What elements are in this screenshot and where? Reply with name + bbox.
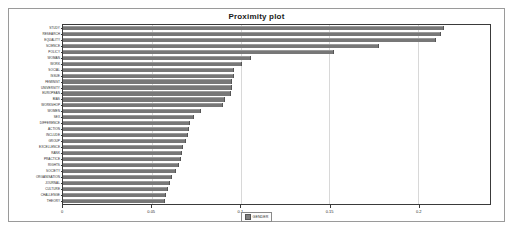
x-axis-tick	[419, 205, 420, 208]
y-axis-label: PRACTICE	[44, 157, 60, 161]
bar[interactable]	[63, 97, 225, 101]
y-axis-label: SOCIETY	[46, 169, 60, 173]
bar[interactable]	[63, 32, 441, 36]
y-axis-label: WOMAN	[48, 56, 60, 60]
y-axis-label: UNIVERSITY	[41, 86, 60, 90]
y-axis-label: FEMINIST	[45, 80, 60, 84]
y-axis-label: RIGHTS	[48, 163, 60, 167]
x-axis-tick	[62, 205, 63, 208]
x-axis-label: 0.15	[326, 209, 334, 214]
page-title: Proximity plot	[9, 12, 504, 21]
y-axis-label: SEX	[54, 115, 60, 119]
bar[interactable]	[63, 193, 166, 197]
x-axis-tick	[151, 205, 152, 208]
bar[interactable]	[63, 139, 186, 143]
bar[interactable]	[63, 187, 168, 191]
bar[interactable]	[63, 157, 181, 161]
bar[interactable]	[63, 38, 436, 42]
y-axis-label: WORK	[50, 62, 60, 66]
y-axis-label: EUROPEAN	[42, 91, 60, 95]
bar[interactable]	[63, 151, 182, 155]
y-axis-label: EQUALITY	[44, 38, 60, 42]
bar[interactable]	[63, 127, 189, 131]
bar[interactable]	[63, 109, 201, 113]
bar[interactable]	[63, 133, 188, 137]
y-axis-label: THEORY	[47, 199, 60, 203]
bar[interactable]	[63, 44, 379, 48]
y-axis-label: WORKSHOP	[41, 103, 60, 107]
bar[interactable]	[63, 115, 194, 119]
bar[interactable]	[63, 56, 251, 60]
bar[interactable]	[63, 163, 179, 167]
bar[interactable]	[63, 50, 334, 54]
y-axis-label: ISSUE	[50, 74, 60, 78]
bar[interactable]	[63, 62, 242, 66]
bar-rows: STUDYRESEARCHEQUALITYSCIENCEPOLICYWOMANW…	[63, 25, 490, 204]
y-axis-label: ORGANISATION	[36, 175, 60, 179]
bar[interactable]	[63, 199, 165, 203]
x-axis-label: 0	[61, 209, 63, 214]
bar[interactable]	[63, 85, 232, 89]
y-axis-label: SCIENCE	[46, 44, 60, 48]
bar[interactable]	[63, 26, 444, 30]
y-axis-label: BIAS	[53, 97, 60, 101]
bar-row[interactable]: THEORY	[63, 198, 490, 204]
x-axis: 00.050.10.150.2	[62, 205, 491, 219]
y-axis-label: JOURNAL	[45, 181, 60, 185]
bar[interactable]	[63, 145, 183, 149]
bar[interactable]	[63, 79, 232, 83]
y-axis-label: RESEARCH	[42, 32, 60, 36]
y-axis-label: CULTURE	[45, 187, 60, 191]
legend-swatch-icon	[245, 214, 251, 220]
y-axis-label: ACTION	[48, 127, 60, 131]
bar[interactable]	[63, 91, 231, 95]
bar[interactable]	[63, 74, 234, 78]
x-axis-tick	[330, 205, 331, 208]
y-axis-label: CHALLENGE	[41, 193, 60, 197]
y-axis-label: STUDY	[49, 26, 60, 30]
bar[interactable]	[63, 103, 223, 107]
y-axis-label: RANK	[51, 151, 60, 155]
chart-plot-area: STUDYRESEARCHEQUALITYSCIENCEPOLICYWOMANW…	[62, 24, 491, 205]
bar[interactable]	[63, 175, 172, 179]
proximity-plot-panel: Proximity plot STUDYRESEARCHEQUALITYSCIE…	[8, 8, 505, 222]
bar[interactable]	[63, 68, 234, 72]
y-axis-label: GROUP	[48, 139, 60, 143]
bar[interactable]	[63, 181, 170, 185]
bar[interactable]	[63, 121, 190, 125]
y-axis-label: DIFFERENCE	[40, 121, 60, 125]
x-axis-label: 0.05	[147, 209, 155, 214]
legend[interactable]: GENDER	[241, 212, 273, 222]
y-axis-label: SOCIAL	[48, 68, 60, 72]
y-axis-label: INCLUDE	[46, 133, 60, 137]
x-axis-label: 0.2	[416, 209, 422, 214]
legend-label: GENDER	[253, 215, 269, 219]
y-axis-label: POLICY	[48, 50, 60, 54]
x-axis-tick	[240, 205, 241, 208]
y-axis-label: EXCELLENCE	[39, 145, 60, 149]
y-axis-label: WOMEN	[48, 109, 60, 113]
bar[interactable]	[63, 169, 176, 173]
